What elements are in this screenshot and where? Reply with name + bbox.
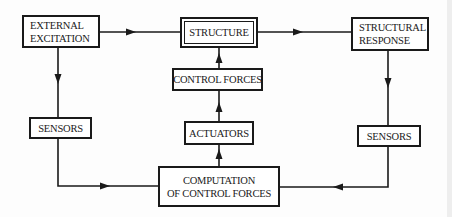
- sensors-right-box: SENSORS: [357, 125, 421, 147]
- arrowhead-up-icon: [216, 149, 223, 159]
- sensors-left-label: SENSORS: [38, 122, 83, 135]
- computation-line-1: COMPUTATION: [183, 174, 255, 187]
- external-excitation-box: EXTERNAL EXCITATION: [22, 15, 100, 48]
- external-excitation-line-1: EXTERNAL: [30, 19, 84, 32]
- control-forces-box: CONTROL FORCES: [172, 68, 263, 91]
- arrowhead-up-icon: [216, 53, 223, 63]
- sensors-left-box: SENSORS: [29, 117, 92, 139]
- structure-label: STRUCTURE: [189, 26, 248, 39]
- structure-box: STRUCTURE: [180, 17, 258, 48]
- structural-response-box: STRUCTURAL RESPONSE: [351, 17, 429, 51]
- arrowhead-right-icon: [293, 29, 303, 36]
- edge-sensors-right-to-computation: [279, 146, 388, 187]
- sensors-right-label: SENSORS: [367, 130, 412, 143]
- arrowhead-down-icon: [55, 74, 62, 84]
- diagram-canvas: EXTERNAL EXCITATION STRUCTURE STRUCTURAL…: [0, 0, 452, 217]
- arrowhead-right-icon: [126, 29, 136, 36]
- arrowhead-right-icon: [100, 183, 110, 190]
- arrowhead-left-icon: [333, 184, 343, 191]
- control-forces-label: CONTROL FORCES: [173, 73, 262, 86]
- structural-response-line-1: STRUCTURAL: [359, 21, 426, 34]
- computation-line-2: OF CONTROL FORCES: [167, 187, 271, 200]
- computation-box: COMPUTATION OF CONTROL FORCES: [158, 166, 280, 207]
- actuators-box: ACTUATORS: [184, 121, 254, 145]
- actuators-label: ACTUATORS: [189, 127, 249, 140]
- edge-sensors-left-to-computation: [58, 138, 158, 186]
- arrowhead-down-icon: [385, 78, 392, 88]
- structural-response-line-2: RESPONSE: [359, 34, 410, 47]
- external-excitation-line-2: EXCITATION: [30, 32, 90, 45]
- arrowhead-up-icon: [216, 102, 223, 112]
- structure-box-inner: STRUCTURE: [184, 21, 254, 44]
